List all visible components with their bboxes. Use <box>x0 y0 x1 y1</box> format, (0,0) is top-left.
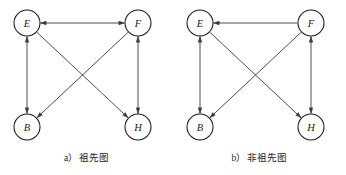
edge-layer <box>198 21 313 118</box>
graph-canvas-b: EFBH <box>173 0 346 148</box>
panel-ancestor-graph: EFBH a）祖先图 <box>0 0 173 175</box>
panel-non-ancestor-graph: EFBH b）非祖先图 <box>173 0 346 175</box>
arrowhead-to-H <box>136 108 140 114</box>
graph-node-F[interactable]: F <box>125 10 151 36</box>
edge-E-B-bidirectional <box>198 37 202 114</box>
arrowhead-to-B <box>198 108 202 114</box>
graph-node-B[interactable]: B <box>187 114 213 140</box>
node-label: H <box>306 122 316 133</box>
node-label: B <box>197 122 204 133</box>
graph-node-H[interactable]: H <box>125 114 151 140</box>
node-label: H <box>133 122 143 133</box>
graph-node-E[interactable]: E <box>187 10 213 36</box>
graph-node-F[interactable]: F <box>298 10 324 36</box>
graph-node-B[interactable]: B <box>14 114 40 140</box>
edge-E-B-bidirectional <box>25 37 29 114</box>
node-label: B <box>24 122 31 133</box>
arrowhead-to-E <box>198 37 202 43</box>
arrowhead-to-F <box>309 37 313 43</box>
edge-F-H-bidirectional <box>136 37 140 114</box>
edge-layer <box>25 21 140 118</box>
arrowhead-to-B <box>25 108 29 114</box>
node-label: E <box>196 18 204 29</box>
arrowhead-to-H <box>309 108 313 114</box>
arrowhead-to-E <box>25 37 29 43</box>
edge-F-E-directed <box>214 21 298 25</box>
arrowhead-to-F <box>136 37 140 43</box>
graph-canvas-a: EFBH <box>0 0 173 148</box>
node-label: F <box>134 18 142 29</box>
panel-caption-a: a）祖先图 <box>0 150 173 164</box>
arrowhead-to-F <box>119 21 125 25</box>
arrowhead-to-E <box>214 21 220 25</box>
node-label: E <box>23 18 31 29</box>
edge-E-F-bidirectional <box>41 21 125 25</box>
graph-node-E[interactable]: E <box>14 10 40 36</box>
panel-caption-b: b）非祖先图 <box>173 150 346 164</box>
graph-node-H[interactable]: H <box>298 114 324 140</box>
edge-F-H-bidirectional <box>309 37 313 114</box>
node-label: F <box>307 18 315 29</box>
arrowhead-to-E <box>41 21 47 25</box>
figure-root: EFBH a）祖先图 EFBH b）非祖先图 <box>0 0 346 175</box>
